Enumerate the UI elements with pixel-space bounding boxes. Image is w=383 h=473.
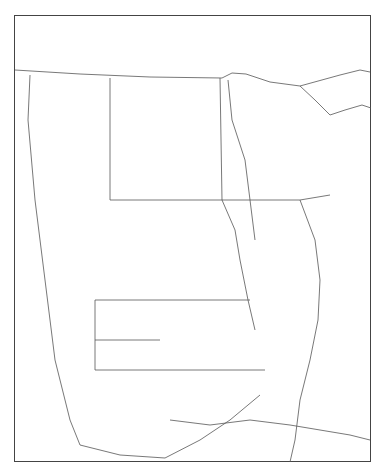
state-boundaries [15,70,371,462]
distribution-map [0,0,383,473]
